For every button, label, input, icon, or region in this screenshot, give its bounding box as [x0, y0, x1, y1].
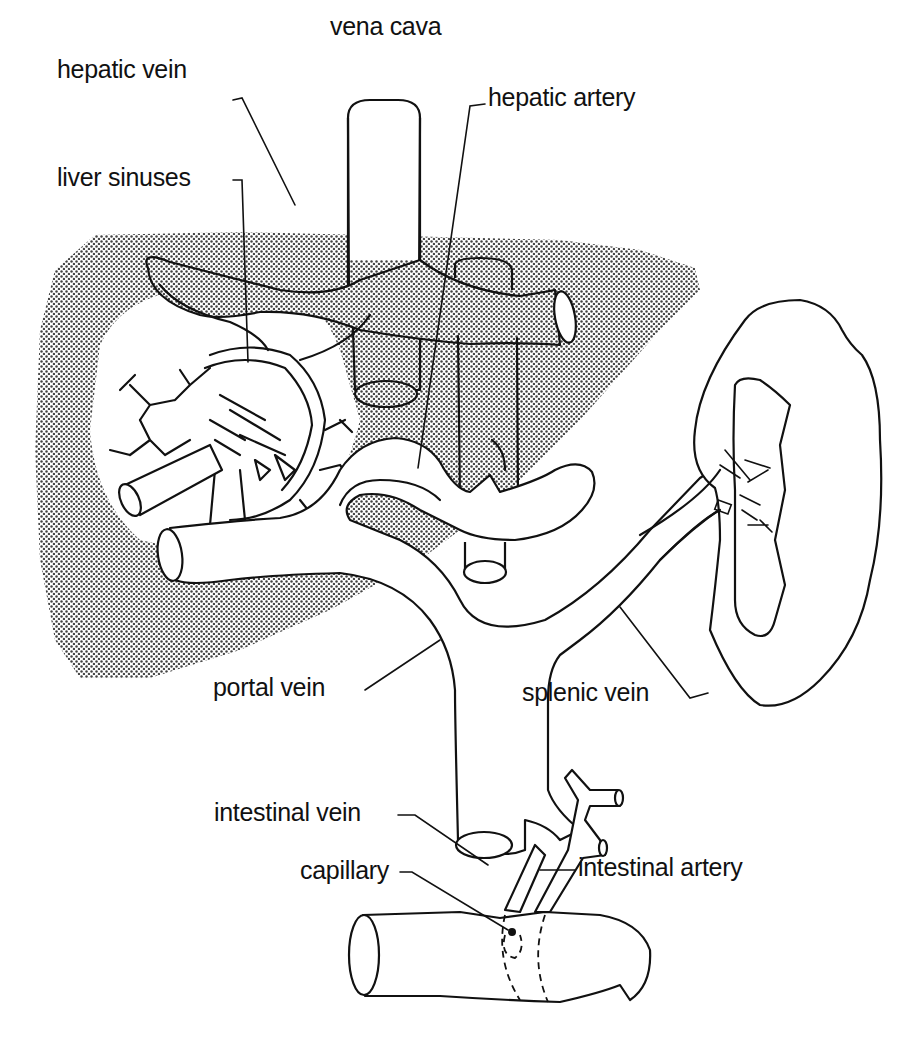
spleen	[694, 300, 881, 706]
intestinal-vein-shape	[505, 845, 545, 912]
label-portal-vein: portal vein	[213, 675, 325, 700]
label-vena-cava: vena cava	[330, 14, 441, 39]
label-intestinal-vein: intestinal vein	[214, 800, 361, 825]
label-hepatic-artery: hepatic artery	[488, 85, 635, 110]
vena-cava	[348, 100, 420, 407]
label-capillary: capillary	[300, 858, 389, 883]
diagram-artwork	[0, 0, 909, 1052]
label-splenic-vein: splenic vein	[522, 680, 649, 705]
label-liver-sinuses: liver sinuses	[57, 165, 191, 190]
hepatic-portal-diagram: vena cava hepatic vein hepatic artery li…	[0, 0, 909, 1052]
label-hepatic-vein: hepatic vein	[57, 57, 187, 82]
label-intestinal-artery: intestinal artery	[578, 855, 742, 880]
